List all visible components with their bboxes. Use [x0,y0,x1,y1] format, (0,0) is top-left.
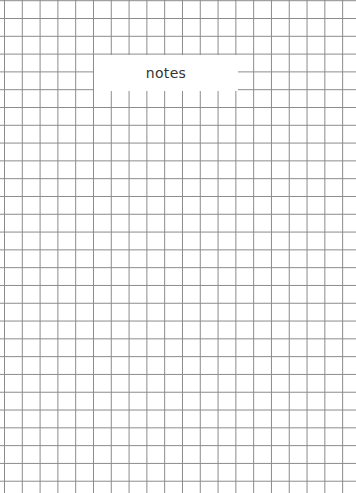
title-label: notes [146,65,186,81]
title-label-box: notes [94,55,238,91]
